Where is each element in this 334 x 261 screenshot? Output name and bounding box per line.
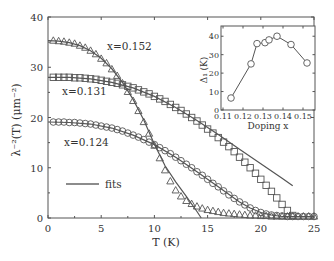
y-tick-label: 10 xyxy=(30,163,43,174)
penetration-depth-chart: 0510152025010203040 x=0.152 x=0.131 x=0.… xyxy=(0,0,334,261)
inset-point xyxy=(228,95,235,102)
x-tick-label: 20 xyxy=(254,223,267,234)
inset-point xyxy=(288,41,295,48)
inset-y-tick-label: 30 xyxy=(209,51,219,60)
x-tick-label: 0 xyxy=(45,223,51,234)
x-axis-label: T (K) xyxy=(152,236,180,249)
y-axis-label: λ⁻²(T) (μm⁻²) xyxy=(10,84,23,157)
inset-point xyxy=(254,40,261,47)
x-tick-label: 10 xyxy=(148,223,161,234)
inset-y-tick-label: 40 xyxy=(209,32,219,41)
inset-point xyxy=(266,37,273,44)
x-tick-label: 25 xyxy=(308,223,321,234)
inset-y-tick-label: 20 xyxy=(209,69,219,78)
legend-fits-label: fits xyxy=(105,178,122,190)
inset-point xyxy=(274,33,281,40)
inset-y-tick-label: 0 xyxy=(214,106,219,115)
inset-point xyxy=(304,60,311,67)
y-tick-label: 20 xyxy=(30,113,43,124)
inset-x-tick-label: 0.14 xyxy=(274,112,292,121)
inset-y-axis-label: Δ₁ (K) xyxy=(199,57,209,84)
inset-x-tick-label: 0.13 xyxy=(254,112,272,121)
y-tick-label: 0 xyxy=(37,213,43,224)
inset-x-tick-label: 0.15 xyxy=(294,112,312,121)
inset-x-axis-label: Doping x xyxy=(248,121,289,131)
y-tick-label: 40 xyxy=(30,12,43,23)
annotation-x-0152: x=0.152 xyxy=(107,40,152,52)
y-tick-label: 30 xyxy=(30,62,43,73)
inset-y-tick-label: 10 xyxy=(209,88,219,97)
inset-point xyxy=(248,61,255,68)
x-tick-label: 5 xyxy=(98,223,104,234)
annotation-x-0131: x=0.131 xyxy=(62,85,107,97)
inset-x-tick-label: 0.12 xyxy=(234,112,252,121)
annotation-x-0124: x=0.124 xyxy=(64,136,109,148)
x-tick-label: 15 xyxy=(201,223,214,234)
